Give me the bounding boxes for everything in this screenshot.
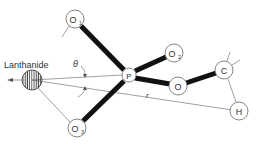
- bond-o-c: [186, 73, 216, 83]
- lanthanide-to-o3-line: [38, 88, 70, 122]
- lanthanide-phosphate-diagram: Lanthanide θ r P O 1 O 2 O 3 O C H: [0, 0, 262, 144]
- atom-c-label: C: [221, 66, 228, 76]
- atom-o1-subscript: 1: [79, 20, 82, 26]
- atom-o: O: [169, 77, 187, 95]
- c-tick-up: [227, 52, 230, 61]
- atom-o-label: O: [174, 82, 181, 92]
- atom-o3-label: O: [71, 124, 78, 134]
- o1-tail-line: [62, 26, 69, 37]
- theta-label: θ: [73, 59, 78, 69]
- thick-bonds: [81, 26, 216, 121]
- bond-p-o2: [135, 57, 166, 71]
- atom-o2: O 2: [165, 44, 183, 62]
- c-tick-right: [232, 60, 240, 65]
- lanthanide-axis-line: [32, 80, 232, 110]
- atom-o2-subscript: 2: [178, 54, 181, 60]
- lanthanide-label: Lanthanide: [4, 60, 49, 70]
- atom-o1-label: O: [69, 15, 76, 25]
- atom-h: H: [230, 102, 248, 120]
- lanthanide-to-p-line: [32, 75, 122, 80]
- atom-c: C: [215, 61, 233, 79]
- atom-o2-label: O: [168, 49, 175, 59]
- atom-o3: O 3: [68, 119, 86, 137]
- atom-p-label: P: [126, 72, 131, 81]
- atom-h-label: H: [236, 107, 243, 117]
- bond-p-o3: [83, 81, 124, 121]
- atom-o1: O 1: [66, 10, 84, 28]
- c-to-h-line: [228, 79, 236, 102]
- atom-o3-subscript: 3: [81, 129, 84, 135]
- arrow-head-icon: [7, 78, 13, 82]
- bond-o1-p: [81, 26, 124, 70]
- distance-r-label: r: [146, 91, 149, 100]
- lanthanide-sphere: [22, 70, 42, 90]
- atom-lanthanide: [22, 70, 42, 90]
- atom-p: P: [122, 68, 136, 82]
- bond-p-o: [135, 78, 170, 84]
